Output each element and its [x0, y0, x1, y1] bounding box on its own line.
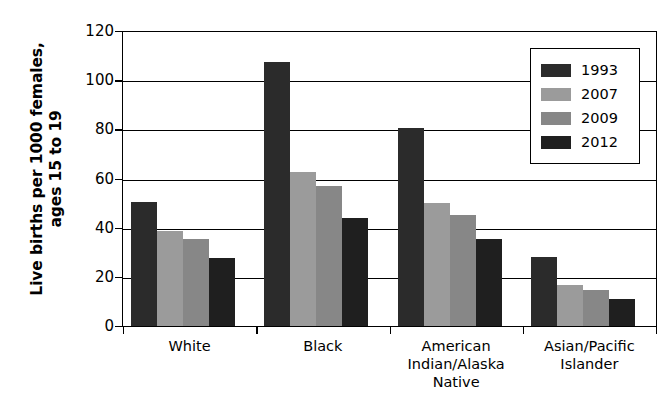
legend-swatch-icon [541, 64, 571, 77]
legend-swatch-icon [541, 88, 571, 101]
bar [131, 202, 157, 326]
x-tick-mark [123, 326, 124, 334]
bar [476, 239, 502, 326]
x-category-label-line: Indian/Alaska [408, 356, 505, 372]
bar [264, 62, 290, 326]
legend-label: 2012 [581, 134, 618, 150]
x-category-label-line: Asian/Pacific [544, 338, 635, 354]
bar-group [390, 31, 523, 326]
x-category-label-line: Islander [560, 356, 618, 372]
x-category-label-line: Black [303, 338, 342, 354]
y-tick-label-120: 120 [56, 22, 114, 40]
bar [424, 203, 450, 326]
bar [609, 299, 635, 326]
bar [316, 186, 342, 326]
legend-item[interactable]: 1993 [541, 58, 631, 82]
legend: 1993200720092012 [530, 48, 640, 164]
x-axis-category-labels: WhiteBlackAmericanIndian/AlaskaNativeAsi… [123, 337, 656, 391]
bar [342, 218, 368, 326]
legend-swatch-icon [541, 136, 571, 149]
x-tick-mark [523, 326, 524, 334]
x-category-label: Black [256, 337, 389, 391]
bar [290, 172, 316, 326]
bar [157, 231, 183, 326]
legend-swatch-icon [541, 112, 571, 125]
bar [398, 128, 424, 326]
bar [531, 257, 557, 326]
bar-chart: Live births per 1000 females, ages 15 to… [0, 0, 667, 420]
bar [583, 290, 609, 326]
y-tick-label-60: 60 [56, 170, 114, 188]
y-tick-label-0: 0 [56, 317, 114, 335]
x-category-label: AmericanIndian/AlaskaNative [390, 337, 523, 391]
legend-label: 1993 [581, 62, 618, 78]
bar [209, 258, 235, 326]
bar-group [123, 31, 256, 326]
x-category-label-line: White [169, 338, 211, 354]
legend-item[interactable]: 2012 [541, 130, 631, 154]
x-category-label-line: American [422, 338, 491, 354]
x-category-label-line: Native [433, 374, 480, 390]
x-tick-mark [656, 326, 657, 334]
y-tick-label-100: 100 [56, 71, 114, 89]
bar [450, 215, 476, 326]
y-tick-label-40: 40 [56, 219, 114, 237]
legend-item[interactable]: 2009 [541, 106, 631, 130]
x-tick-mark [390, 326, 391, 334]
y-axis-title-line-1: Live births per 1000 females, [28, 42, 46, 295]
legend-label: 2009 [581, 110, 618, 126]
x-category-label: White [123, 337, 256, 391]
x-tick-mark [256, 326, 257, 334]
x-category-label: Asian/PacificIslander [523, 337, 656, 391]
legend-label: 2007 [581, 86, 618, 102]
y-tick-label-20: 20 [56, 268, 114, 286]
bar-group [256, 31, 389, 326]
y-tick-label-80: 80 [56, 120, 114, 138]
bar [183, 239, 209, 326]
legend-item[interactable]: 2007 [541, 82, 631, 106]
bar [557, 285, 583, 326]
